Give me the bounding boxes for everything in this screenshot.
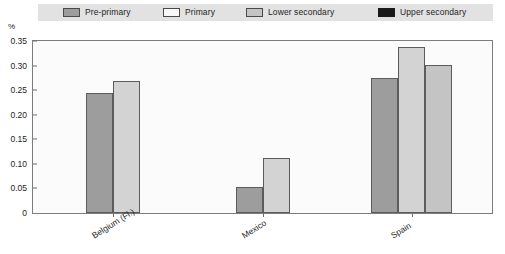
bar-mexico-pre-primary xyxy=(236,187,263,213)
legend-label-pre-primary: Pre-primary xyxy=(85,8,131,17)
chart-plot-inner: 0.350.300.250.200.150.100.050 xyxy=(33,41,492,213)
y-axis-tick-mark xyxy=(33,139,37,140)
y-axis-tick-label: 0.25 xyxy=(10,85,27,95)
y-axis-tick-mark xyxy=(33,114,37,115)
chart-plot-area: 0.350.300.250.200.150.100.050 xyxy=(32,40,493,214)
chart-legend: Pre-primary Primary Lower secondary Uppe… xyxy=(38,4,493,21)
legend-item-pre-primary: Pre-primary xyxy=(63,4,131,21)
legend-swatch-primary xyxy=(163,8,180,17)
y-axis-tick-mark xyxy=(33,65,37,66)
y-axis-tick-label: 0.30 xyxy=(10,61,27,71)
legend-label-primary: Primary xyxy=(185,8,215,17)
x-axis-category-label: Spain xyxy=(389,220,413,240)
bar-spain-primary xyxy=(398,47,425,213)
y-axis-tick-label: 0.10 xyxy=(10,159,27,169)
y-axis-tick-label: 0 xyxy=(22,208,27,218)
legend-label-upper-secondary: Upper secondary xyxy=(400,8,466,17)
legend-item-lower-secondary: Lower secondary xyxy=(246,4,334,21)
y-axis-tick-label: 0.35 xyxy=(10,36,27,46)
legend-swatch-upper-secondary xyxy=(378,8,395,17)
legend-label-lower-secondary: Lower secondary xyxy=(268,8,334,17)
bar-belgium-fl-primary xyxy=(113,81,140,213)
y-axis-tick-mark xyxy=(33,41,37,42)
bar-mexico-primary xyxy=(263,158,290,213)
y-axis-tick-mark xyxy=(33,90,37,91)
y-axis-tick-mark xyxy=(33,188,37,189)
legend-item-upper-secondary: Upper secondary xyxy=(378,4,466,21)
bar-spain-lower-secondary xyxy=(425,65,452,213)
legend-swatch-pre-primary xyxy=(63,8,80,17)
x-axis-category-label: Mexico xyxy=(240,218,268,241)
bar-belgium-fl-pre-primary xyxy=(86,93,113,213)
bar-spain-pre-primary xyxy=(371,78,398,213)
legend-swatch-lower-secondary xyxy=(246,8,263,17)
y-axis-tick-label: 0.05 xyxy=(10,183,27,193)
y-axis-tick-label: 0.20 xyxy=(10,110,27,120)
x-axis-labels: Belgium (Fl.)MexicoSpain xyxy=(32,216,493,254)
legend-item-primary: Primary xyxy=(163,4,215,21)
y-axis-tick-label: 0.15 xyxy=(10,134,27,144)
y-axis-tick-mark xyxy=(33,163,37,164)
y-axis-unit-label: % xyxy=(8,22,15,31)
